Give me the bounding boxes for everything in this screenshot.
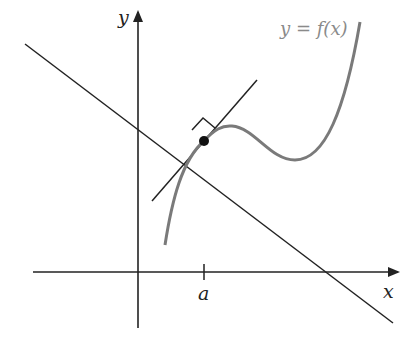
tangent-point [199, 136, 209, 146]
function-curve [165, 22, 360, 245]
x-axis-label: x [383, 280, 394, 302]
y-axis-label: y [118, 6, 129, 28]
curve-label: y = f(x) [280, 18, 348, 39]
right-angle-marker [192, 118, 215, 130]
tick-label-a: a [198, 282, 209, 304]
